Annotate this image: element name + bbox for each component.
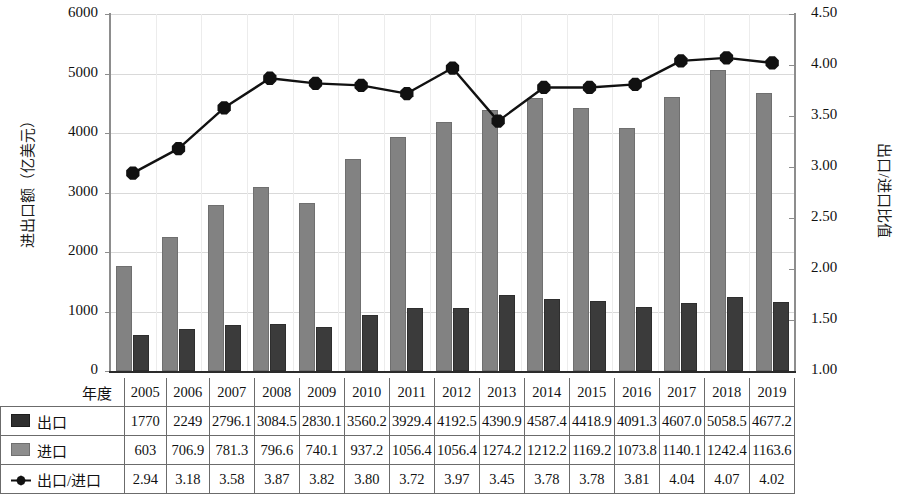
data-table: 年度 2005200620072008200920102011201220132… [0, 378, 795, 494]
ratio-marker [629, 78, 642, 91]
ratio-marker [218, 101, 231, 114]
table-row-export: 出口 177022492796.13084.52830.13560.23929.… [1, 407, 795, 436]
ratio-marker [537, 81, 550, 94]
ratio-marker [400, 87, 413, 100]
ratio-marker [766, 56, 779, 69]
table-cell-ratio: 3.97 [434, 465, 479, 494]
chart-figure: 进出口额（亿美元） 出口/进口比值 0100020003000400050006… [0, 0, 905, 495]
ratio-marker [583, 81, 596, 94]
ratio-marker [309, 77, 322, 90]
table-cell-import: 603 [124, 436, 166, 465]
table-cell-export: 3560.2 [344, 407, 389, 436]
y-tick-label-left: 2000 [0, 243, 98, 258]
row-label-ratio: 出口/进口 [1, 465, 125, 494]
table-cell-year: 2007 [209, 378, 254, 407]
table-cell-import: 1274.2 [479, 436, 524, 465]
y-tick-label-left: 4000 [0, 124, 98, 139]
ratio-marker [720, 51, 733, 64]
table-cell-year: 2011 [389, 378, 434, 407]
table-cell-export: 4192.5 [434, 407, 479, 436]
line-series-layer [110, 14, 795, 371]
plot-area [110, 14, 795, 371]
table-cell-import: 1056.4 [434, 436, 479, 465]
table-cell-year: 2008 [254, 378, 299, 407]
table-cell-ratio: 3.45 [479, 465, 524, 494]
table-cell-import: 796.6 [254, 436, 299, 465]
y-tick-label-left: 5000 [0, 65, 98, 80]
table-cell-export: 4587.4 [524, 407, 569, 436]
y-tick-label-right: 3.00 [811, 158, 861, 173]
legend-label-ratio: 出口/进口 [37, 473, 101, 489]
table-row-ratio: 出口/进口 2.943.183.583.873.823.803.723.973.… [1, 465, 795, 494]
table-cell-export: 5058.5 [704, 407, 749, 436]
table-cell-import: 1140.1 [659, 436, 704, 465]
table-cell-import: 1212.2 [524, 436, 569, 465]
y-tick-label-right: 4.50 [811, 5, 861, 20]
table-cell-year: 2006 [166, 378, 209, 407]
y-axis-right-title: 出口/进口比值 [875, 111, 896, 271]
table-cell-export: 3084.5 [254, 407, 299, 436]
table-cell-year: 2010 [344, 378, 389, 407]
table-cell-import: 1169.2 [569, 436, 614, 465]
table-cell-export: 4418.9 [569, 407, 614, 436]
table-cell-export: 2830.1 [299, 407, 344, 436]
table-cell-import: 1073.8 [614, 436, 659, 465]
ratio-marker [172, 142, 185, 155]
table-cell-year: 2014 [524, 378, 569, 407]
table-cell-year: 2019 [749, 378, 794, 407]
ratio-marker [446, 61, 459, 74]
table-cell-year: 2015 [569, 378, 614, 407]
y-tick-label-right: 1.00 [811, 362, 861, 377]
table-row-year: 年度 2005200620072008200920102011201220132… [1, 378, 795, 407]
table-cell-export: 4091.3 [614, 407, 659, 436]
row-label-export: 出口 [1, 407, 125, 436]
table-cell-export: 4607.0 [659, 407, 704, 436]
ratio-marker [674, 54, 687, 67]
table-cell-export: 2249 [166, 407, 209, 436]
axis-line-bottom [109, 371, 796, 373]
axis-line-right [794, 13, 796, 372]
table-cell-year: 2012 [434, 378, 479, 407]
ratio-marker [126, 166, 139, 179]
table-row-import: 进口 603706.9781.3796.6740.1937.21056.4105… [1, 436, 795, 465]
table-cell-year: 2017 [659, 378, 704, 407]
table-cell-year: 2005 [124, 378, 166, 407]
legend-label-import: 进口 [37, 444, 67, 460]
table-cell-ratio: 4.04 [659, 465, 704, 494]
table-cell-import: 781.3 [209, 436, 254, 465]
table-cell-year: 2018 [704, 378, 749, 407]
legend-swatch-import [11, 443, 30, 456]
table-cell-ratio: 4.07 [704, 465, 749, 494]
y-tick-label-left: 0 [0, 362, 98, 377]
table-cell-ratio: 3.78 [524, 465, 569, 494]
y-tick-label-left: 3000 [0, 184, 98, 199]
y-tick-label-right: 4.00 [811, 56, 861, 71]
table-cell-ratio: 3.80 [344, 465, 389, 494]
row-label-year: 年度 [1, 378, 125, 407]
y-tick-label-left: 6000 [0, 5, 98, 20]
table-cell-ratio: 2.94 [124, 465, 166, 494]
table-cell-year: 2013 [479, 378, 524, 407]
table-cell-year: 2016 [614, 378, 659, 407]
y-tick-label-right: 1.50 [811, 311, 861, 326]
legend-label-export: 出口 [37, 415, 67, 431]
y-tick-label-right: 2.00 [811, 260, 861, 275]
legend-marker-ratio [11, 473, 31, 484]
ratio-marker [263, 72, 276, 85]
table-cell-import: 1056.4 [389, 436, 434, 465]
table-cell-export: 4390.9 [479, 407, 524, 436]
table-cell-export: 3929.4 [389, 407, 434, 436]
row-label-import: 进口 [1, 436, 125, 465]
ratio-marker [492, 114, 505, 127]
y-tick-label-right: 2.50 [811, 209, 861, 224]
table-cell-import: 740.1 [299, 436, 344, 465]
ratio-marker [355, 79, 368, 92]
table-cell-export: 1770 [124, 407, 166, 436]
table-cell-export: 2796.1 [209, 407, 254, 436]
table-cell-ratio: 3.82 [299, 465, 344, 494]
axis-line-left [109, 13, 111, 372]
table-cell-ratio: 3.78 [569, 465, 614, 494]
y-tick-label-right: 3.50 [811, 107, 861, 122]
table-cell-year: 2009 [299, 378, 344, 407]
table-cell-import: 1163.6 [749, 436, 794, 465]
